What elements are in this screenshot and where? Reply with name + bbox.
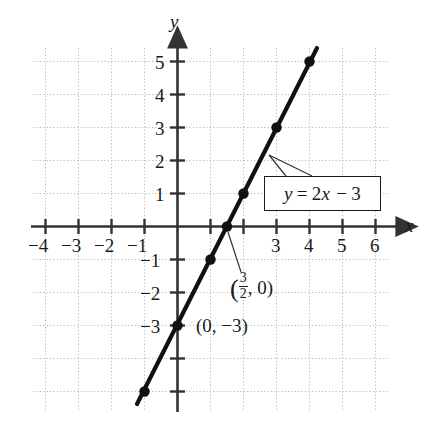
- x-tick-label-minus-3: −3: [61, 236, 81, 255]
- equation-equals-sign: =: [293, 183, 312, 205]
- point-2-1: [238, 188, 248, 198]
- equation-callout-pointer: [269, 155, 312, 176]
- y-tick-label-minus-3: −3: [140, 317, 160, 336]
- x-tick-label-minus-2: −2: [94, 236, 114, 255]
- y-intercept-point-label: (0, −3): [196, 316, 248, 335]
- graph-figure: −4 −3 −2 −1 3 4 5 6 5 4 3 2 1 −1 −2 −3 x…: [0, 0, 441, 430]
- point-3-3: [271, 122, 281, 132]
- x-tick-label-4: 4: [304, 236, 314, 255]
- y-tick-label-5: 5: [155, 53, 165, 72]
- equation-minus-sign: −: [330, 183, 351, 205]
- equation-constant: 3: [351, 183, 361, 205]
- x-intercept-rest: , 0): [248, 278, 273, 297]
- x-intercept-numerator: 3: [239, 271, 248, 286]
- x-axis-label: x: [405, 216, 413, 235]
- y-tick-label-2: 2: [155, 152, 165, 171]
- point-1-neg1: [205, 254, 215, 264]
- y-tick-label-minus-1: −1: [140, 251, 160, 270]
- equation-y-term: y: [284, 183, 293, 205]
- y-tick-label-4: 4: [155, 86, 165, 105]
- point-4-5: [304, 56, 314, 66]
- coordinate-plane-svg: [0, 0, 441, 430]
- y-tick-label-minus-2: −2: [140, 284, 160, 303]
- x-intercept-fraction: 3 2: [239, 271, 248, 301]
- x-intercept-denominator: 2: [239, 286, 248, 302]
- point-1point5-0: [222, 221, 232, 231]
- x-tick-label-6: 6: [370, 236, 380, 255]
- x-intercept-leader-line: [228, 232, 241, 272]
- x-tick-label-3: 3: [271, 236, 281, 255]
- point-0-neg3: [172, 320, 182, 330]
- equation-coefficient: 2: [312, 183, 322, 205]
- y-tick-label-1: 1: [155, 185, 165, 204]
- x-tick-label-5: 5: [337, 236, 347, 255]
- x-intercept-point-label: ( 3 2 , 0): [230, 272, 273, 302]
- x-tick-label-minus-4: −4: [28, 236, 48, 255]
- x-intercept-open-paren: (: [230, 277, 239, 300]
- equation-x-term: x: [322, 183, 331, 205]
- y-tick-label-3: 3: [155, 119, 165, 138]
- point-neg1-neg5: [139, 386, 149, 396]
- equation-callout-box: y = 2 x − 3: [264, 176, 381, 211]
- y-axis-label: y: [170, 12, 178, 31]
